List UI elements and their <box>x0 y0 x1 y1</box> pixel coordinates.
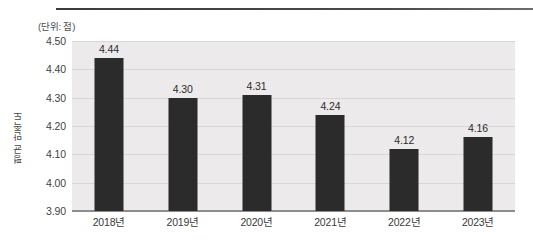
y-tick-label: 4.00 <box>22 177 66 189</box>
bar-value-label: 4.30 <box>173 83 193 95</box>
x-tick-label: 2018년 <box>72 214 146 229</box>
bar-chart: (단위: 점) 평균 만족도 4.504.404.304.204.104.003… <box>0 0 533 245</box>
y-axis-ticks: 4.504.404.304.204.104.003.90 <box>20 41 66 211</box>
bar[interactable] <box>168 98 197 211</box>
bar-slot: 4.31 <box>220 41 294 211</box>
bar-value-label: 4.44 <box>99 43 119 55</box>
unit-label: (단위: 점) <box>38 19 75 33</box>
top-divider <box>56 8 533 10</box>
x-tick-label: 2022년 <box>367 214 441 229</box>
bar[interactable] <box>390 149 419 211</box>
bar-slot: 4.16 <box>441 41 515 211</box>
x-tick-label: 2021년 <box>294 214 368 229</box>
bar-slot: 4.24 <box>294 41 368 211</box>
y-tick-label: 4.10 <box>22 148 66 160</box>
y-tick-label: 4.40 <box>22 63 66 75</box>
x-axis-ticks: 2018년2019년2020년2021년2022년2023년 <box>72 214 515 236</box>
bar[interactable] <box>94 58 123 211</box>
bar-slot: 4.44 <box>72 41 146 211</box>
bar-slot: 4.30 <box>146 41 220 211</box>
x-tick-label: 2019년 <box>146 214 220 229</box>
y-tick-label: 4.50 <box>22 35 66 47</box>
bar-value-label: 4.24 <box>320 100 340 112</box>
bar[interactable] <box>242 95 271 211</box>
bar[interactable] <box>464 137 493 211</box>
bar-slot: 4.12 <box>367 41 441 211</box>
y-tick-label: 4.30 <box>22 92 66 104</box>
x-tick-label: 2023년 <box>441 214 515 229</box>
y-tick-label: 4.20 <box>22 120 66 132</box>
x-tick-label: 2020년 <box>220 214 294 229</box>
bar-value-label: 4.31 <box>247 80 267 92</box>
bar-value-label: 4.12 <box>394 134 414 146</box>
bar-series: 4.444.304.314.244.124.16 <box>72 41 515 211</box>
bar[interactable] <box>316 115 345 211</box>
bar-value-label: 4.16 <box>468 122 488 134</box>
y-tick-label: 3.90 <box>22 205 66 217</box>
